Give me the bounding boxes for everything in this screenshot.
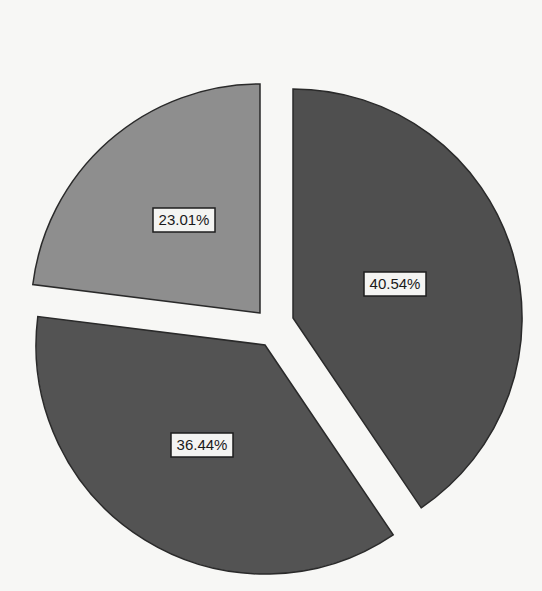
slice-label: 40.54% bbox=[364, 272, 426, 296]
pie-slices bbox=[33, 84, 522, 574]
slice-label-text: 23.01% bbox=[159, 211, 210, 228]
slice-label-text: 36.44% bbox=[177, 436, 228, 453]
slice-label-text: 40.54% bbox=[370, 275, 421, 292]
pie-chart: 40.54%36.44%23.01% bbox=[0, 0, 542, 591]
pie-slice bbox=[33, 84, 260, 313]
slice-label: 36.44% bbox=[171, 433, 233, 457]
slice-label: 23.01% bbox=[153, 208, 215, 232]
